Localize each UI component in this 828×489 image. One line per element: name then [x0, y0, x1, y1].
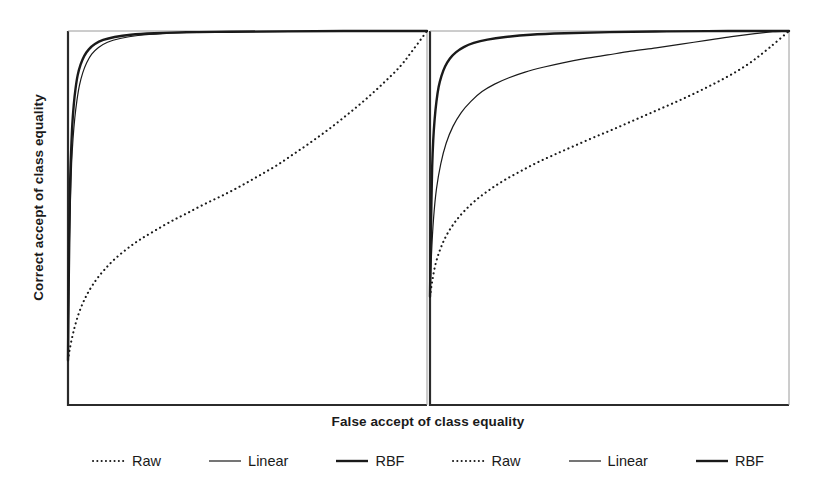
legend-swatch-dotted-icon	[452, 456, 486, 466]
panel-axis-spines	[430, 31, 789, 405]
legend-item-raw-right[interactable]: Raw	[452, 454, 521, 469]
legend-item-raw-left[interactable]: Raw	[92, 454, 161, 469]
series-raw	[430, 31, 789, 297]
legend-swatch-dotted-icon	[92, 456, 126, 466]
legend-item-rbf-right[interactable]: RBF	[695, 454, 764, 469]
legend-swatch-solid-icon	[568, 456, 602, 466]
legend-label: Raw	[132, 454, 161, 469]
panel-axis-spines	[68, 31, 427, 405]
legend: RawLinearRBFRawLinearRBF	[67, 448, 789, 474]
legend-swatch-solid-icon	[208, 456, 242, 466]
legend-label: Linear	[248, 454, 288, 469]
x-axis-label: False accept of class equality	[67, 414, 789, 429]
legend-item-linear-left[interactable]: Linear	[208, 454, 288, 469]
series-linear	[68, 31, 427, 360]
legend-swatch-solid-icon	[335, 456, 369, 466]
legend-label: Raw	[492, 454, 521, 469]
right-panel	[430, 31, 789, 405]
legend-label: RBF	[735, 454, 764, 469]
left-panel	[68, 31, 427, 405]
series-rbf	[68, 31, 427, 360]
legend-label: Linear	[608, 454, 648, 469]
roc-figure: Correct accept of class equality False a…	[0, 0, 828, 489]
panel-frame	[68, 31, 427, 405]
series-linear	[430, 31, 789, 297]
series-raw	[68, 31, 427, 360]
legend-item-rbf-left[interactable]: RBF	[335, 454, 404, 469]
legend-swatch-solid-icon	[695, 456, 729, 466]
panel-frame	[430, 31, 789, 405]
series-rbf	[430, 31, 789, 297]
legend-item-linear-right[interactable]: Linear	[568, 454, 648, 469]
legend-label: RBF	[375, 454, 404, 469]
